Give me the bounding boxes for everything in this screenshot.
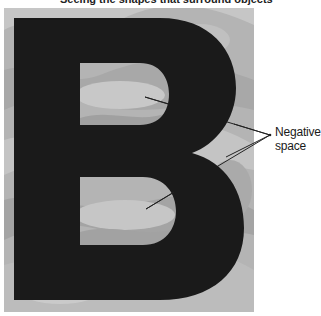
label-line-1: Negative — [275, 125, 321, 139]
label-line-2: space — [275, 139, 321, 153]
negative-space-label: Negative space — [275, 125, 321, 153]
pointer-junction-dot — [269, 134, 272, 137]
